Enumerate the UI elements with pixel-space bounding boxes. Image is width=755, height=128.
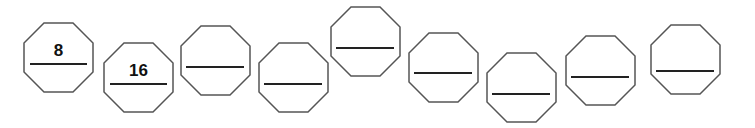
octagon-shape-icon bbox=[565, 35, 636, 106]
octagon-7 bbox=[486, 52, 557, 123]
octagon-shape-icon bbox=[258, 42, 329, 113]
octagon-2: 16 bbox=[103, 42, 174, 113]
octagon-value: 16 bbox=[103, 62, 174, 80]
octagon-shape-icon bbox=[180, 25, 251, 96]
octagon-shape-icon bbox=[408, 32, 479, 103]
octagon-3 bbox=[180, 25, 251, 96]
octagon-4 bbox=[258, 42, 329, 113]
octagon-sequence: 8 16 bbox=[0, 0, 755, 128]
octagon-value: 8 bbox=[23, 42, 94, 60]
octagon-shape-icon bbox=[330, 6, 401, 77]
octagon-6 bbox=[408, 32, 479, 103]
octagon-8 bbox=[565, 35, 636, 106]
octagon-1: 8 bbox=[23, 22, 94, 93]
octagon-shape-icon bbox=[486, 52, 557, 123]
octagon-9 bbox=[650, 24, 721, 95]
octagon-shape-icon bbox=[650, 24, 721, 95]
octagon-5 bbox=[330, 6, 401, 77]
